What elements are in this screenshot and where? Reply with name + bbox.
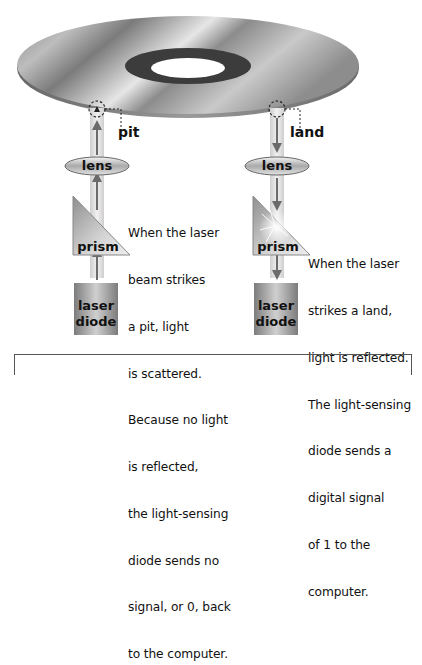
pit-label: pit (118, 124, 140, 140)
caption-line: the light-sensing (128, 507, 231, 523)
caption-line: Because no light (128, 413, 231, 429)
disc-center-hole (151, 58, 225, 78)
right-diode-label-line1: laser (254, 298, 298, 314)
caption-line: digital signal (308, 491, 411, 507)
caption-line: computer. (308, 585, 411, 601)
left-lens-label: lens (65, 158, 129, 173)
land-label: land (290, 124, 324, 140)
caption-line: a pit, light (128, 320, 231, 336)
caption-line: signal, or 0, back (128, 600, 231, 616)
right-diode-label: laser diode (254, 298, 298, 330)
caption-line: is reflected, (128, 460, 231, 476)
right-prism-label: prism (253, 239, 303, 254)
caption-line: diode sends no (128, 554, 231, 570)
caption-line: beam strikes (128, 273, 231, 289)
caption-line: When the laser (308, 257, 411, 273)
pit-caption: When the laser beam strikes a pit, light… (128, 195, 231, 665)
caption-line: When the laser (128, 226, 231, 242)
caption-line: The light-sensing (308, 398, 411, 414)
left-prism-label: prism (73, 239, 123, 254)
right-lens-label: lens (245, 158, 309, 173)
bottom-frame (14, 354, 412, 375)
compact-disc (17, 16, 359, 118)
left-diode-label-line1: laser (74, 298, 118, 314)
caption-line: to the computer. (128, 647, 231, 663)
land-caption: When the laser strikes a land, light is … (308, 226, 411, 616)
right-diode-label-line2: diode (254, 314, 298, 330)
left-diode-label: laser diode (74, 298, 118, 330)
caption-line: strikes a land, (308, 304, 411, 320)
caption-line: diode sends a (308, 444, 411, 460)
caption-line: of 1 to the (308, 538, 411, 554)
left-diode-label-line2: diode (74, 314, 118, 330)
